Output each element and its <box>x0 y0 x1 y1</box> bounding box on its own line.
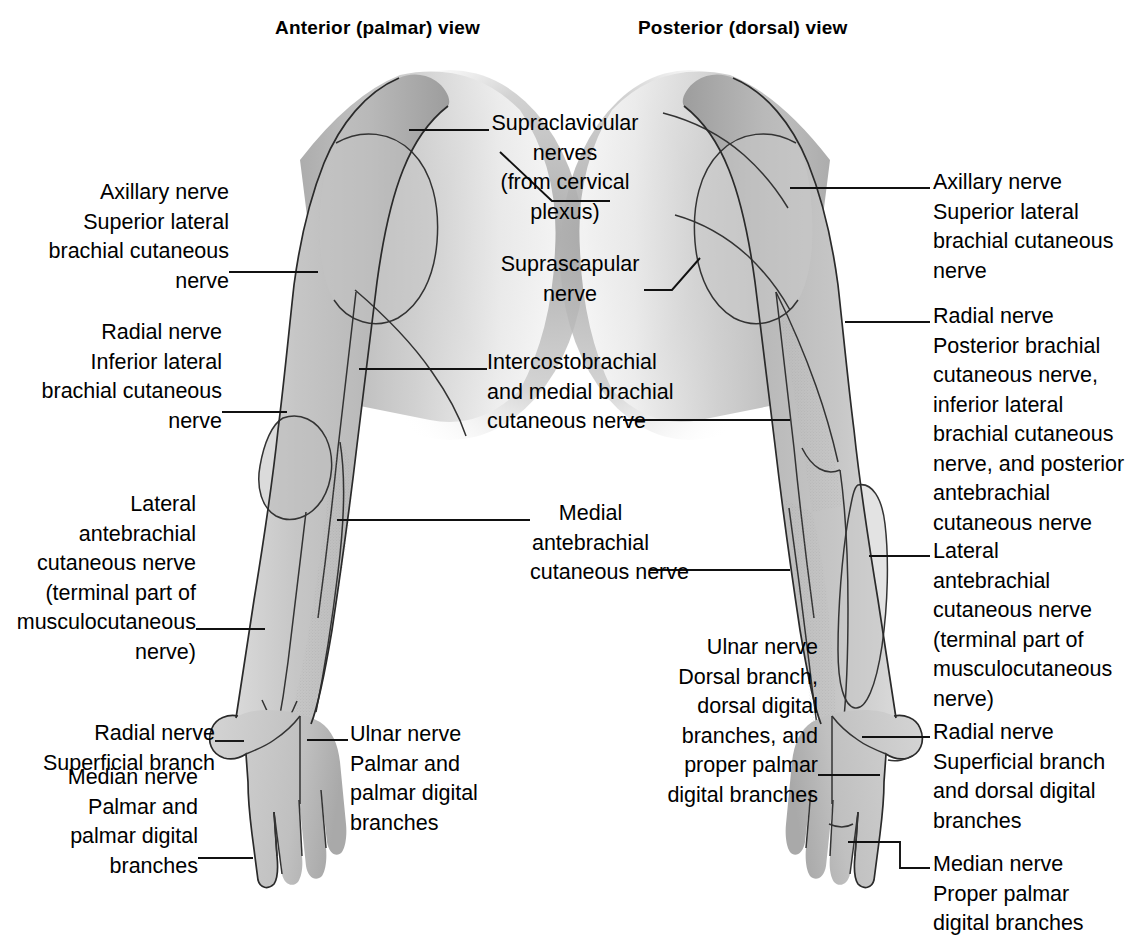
label-line: brachial cutaneous <box>933 422 1113 446</box>
label-line: Axillary nerve <box>100 180 229 204</box>
label-line: (from cervical <box>500 170 629 194</box>
label-line: and medial brachial <box>487 380 673 404</box>
label-line: Proper palmar <box>933 882 1069 906</box>
posterior-thumb-knuckle <box>888 756 912 761</box>
anterior-palm <box>210 710 347 887</box>
anterior-hand-outline <box>210 716 278 888</box>
anterior-finger-line-3 <box>299 800 302 856</box>
leader-suprascapular-nerve <box>644 258 700 290</box>
posterior-axillary-fold <box>776 292 838 462</box>
posterior-finger-line-2 <box>850 812 858 874</box>
label-line: Radial nerve <box>101 320 222 344</box>
label-line: cutaneous nerve, <box>933 363 1098 387</box>
label-radial-nerve-left: Radial nerveInferior lateralbrachial cut… <box>0 318 222 436</box>
label-line: Intercostobrachial <box>487 350 657 374</box>
label-line: branches <box>933 809 1021 833</box>
anterior-inferior-lateral-patch <box>259 416 332 519</box>
title-anterior-view: Anterior (palmar) view <box>275 17 480 39</box>
posterior-lateral-antebrachial-patch <box>838 485 887 708</box>
label-ulnar-nerve-palmar: Ulnar nervePalmar andpalmar digitalbranc… <box>350 720 530 838</box>
label-line: (terminal part of <box>45 581 196 605</box>
label-line: Suprascapular <box>501 252 640 276</box>
label-line: Inferior lateral <box>91 350 222 374</box>
title-posterior-view: Posterior (dorsal) view <box>638 17 847 39</box>
label-line: digital branches <box>933 911 1084 935</box>
label-line: Ulnar nerve <box>707 635 818 659</box>
posterior-medial-arm-line <box>776 292 814 618</box>
anterior-inferior-lateral-boundary <box>259 416 332 519</box>
leader-median-nerve-right <box>848 842 930 868</box>
label-line: Palmar and <box>350 752 460 776</box>
anterior-arm-outline-medial <box>311 106 448 724</box>
label-line: Axillary nerve <box>933 170 1062 194</box>
label-median-nerve-right: Median nerveProper palmardigital branche… <box>933 850 1132 939</box>
label-line: Palmar and <box>88 795 198 819</box>
posterior-finger-knuckle-3 <box>829 824 853 827</box>
anterior-deltoid-region <box>320 134 438 324</box>
label-intercostobrachial-nerve: Intercostobrachialand medial brachialcut… <box>487 348 624 437</box>
label-median-nerve-left: Median nervePalmar andpalmar digitalbran… <box>0 763 198 881</box>
label-supraclavicular-nerves: Supraclavicularnerves(from cervicalplexu… <box>490 109 640 227</box>
label-ulnar-nerve-dorsal: Ulnar nerveDorsal branch,dorsal digitalb… <box>640 633 818 810</box>
label-radial-superficial-right: Radial nerveSuperficial branchand dorsal… <box>933 718 1132 836</box>
label-lateral-antebrachial-left: Lateralantebrachialcutaneous nerve(termi… <box>0 490 196 667</box>
anterior-medial-arm-line <box>318 292 356 618</box>
label-line: (terminal part of <box>933 628 1084 652</box>
anterior-medial-antebrachial-band <box>288 440 352 730</box>
posterior-hand-outline <box>854 716 922 888</box>
label-line: brachial cutaneous <box>49 239 229 263</box>
label-line: Superficial branch <box>933 750 1105 774</box>
label-line: brachial cutaneous <box>933 229 1113 253</box>
label-line: antebrachial <box>933 481 1050 505</box>
label-line: Radial nerve <box>94 721 215 745</box>
label-line: nerve) <box>135 640 196 664</box>
anterior-finger-line-2 <box>274 812 282 874</box>
anterior-thumb-crease <box>246 716 300 754</box>
label-line: branches <box>350 811 438 835</box>
label-line: Posterior brachial <box>933 334 1100 358</box>
label-line: cutaneous nerve <box>37 551 196 575</box>
label-line: nerves <box>533 141 598 165</box>
anterior-deltoid-boundary <box>334 134 438 324</box>
label-line: brachial cutaneous <box>42 379 222 403</box>
label-line: nerve <box>168 409 222 433</box>
label-line: dorsal digital <box>697 694 818 718</box>
label-line: Median nerve <box>933 852 1063 876</box>
label-line: antebrachial <box>933 569 1050 593</box>
label-line: palmar digital <box>350 781 478 805</box>
posterior-olecranon-arc <box>802 448 840 472</box>
label-line: Dorsal branch, <box>678 665 818 689</box>
label-line: Median nerve <box>68 765 198 789</box>
anterior-forearm-lateral-line <box>316 442 344 712</box>
label-line: and dorsal digital <box>933 779 1096 803</box>
anterior-finger-line-4 <box>321 790 326 848</box>
anterior-hand <box>210 710 347 887</box>
label-line: Supraclavicular <box>492 111 639 135</box>
anterior-finger-line-1 <box>274 812 277 856</box>
posterior-suprascapular-boundary <box>675 215 790 310</box>
label-line: nerve <box>175 269 229 293</box>
posterior-finger-line-1 <box>855 812 858 856</box>
label-line: antebrachial <box>79 522 196 546</box>
anterior-forearm-medial-line <box>277 512 306 732</box>
label-line: Lateral <box>130 492 196 516</box>
label-line: cutaneous nerve <box>933 598 1092 622</box>
label-line: cutaneous nerve <box>933 511 1092 535</box>
anatomy-figure: Anterior (palmar) view Posterior (dorsal… <box>0 0 1132 948</box>
label-radial-nerve-right: Radial nervePosterior brachialcutaneous … <box>933 302 1132 538</box>
label-line: nerve <box>543 282 597 306</box>
label-line: digital branches <box>667 783 818 807</box>
label-line: branches <box>110 854 198 878</box>
anterior-arm-silhouette <box>236 75 449 751</box>
label-line: Radial nerve <box>933 304 1054 328</box>
label-line: branches, and <box>682 724 818 748</box>
label-line: Medial <box>559 501 622 525</box>
label-line: antebrachial <box>532 531 649 555</box>
label-line: Lateral <box>933 539 999 563</box>
posterior-thumb-crease <box>832 716 886 754</box>
posterior-supraclavicular-boundary <box>663 113 788 208</box>
label-lateral-antebrachial-right: Lateralantebrachialcutaneous nerve(termi… <box>933 537 1132 714</box>
label-line: Ulnar nerve <box>350 722 461 746</box>
label-line: nerve) <box>933 687 994 711</box>
posterior-arm-outline <box>733 78 896 718</box>
